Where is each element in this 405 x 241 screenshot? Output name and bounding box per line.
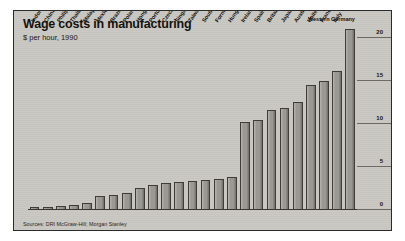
bar[interactable]: Hong Kong — [135, 188, 145, 210]
y-gridline — [357, 37, 391, 38]
bar[interactable]: Spain — [253, 120, 263, 210]
y-tick-label: 10 — [376, 115, 383, 121]
bar[interactable]: Western Germany — [345, 29, 355, 210]
bar-item[interactable]: Britain — [265, 25, 278, 210]
bar[interactable]: United States — [306, 85, 316, 210]
bar-item[interactable]: Hungary — [225, 25, 238, 210]
bar-item[interactable]: France — [317, 25, 330, 210]
bar-item[interactable]: Hong Kong — [133, 25, 146, 210]
bar-item[interactable]: Ireland — [239, 25, 252, 210]
y-gridline — [357, 209, 391, 210]
bar[interactable]: Britain — [267, 110, 277, 210]
bar-item[interactable]: Australia — [291, 25, 304, 210]
y-tick-label: 0 — [380, 201, 383, 207]
bar-item[interactable]: Singapore — [173, 25, 186, 210]
bar-item[interactable]: Italy — [331, 25, 344, 210]
chart-figure: Wage costs in manufacturing $ per hour, … — [13, 10, 392, 231]
bar-label: Spain — [254, 10, 267, 24]
bar[interactable]: Japan — [280, 108, 290, 210]
bar[interactable]: South Korea — [201, 180, 211, 210]
y-tick-label: 20 — [376, 29, 383, 35]
bar-item[interactable]: Poland — [120, 25, 133, 210]
bar[interactable]: Czechoslovakia — [161, 183, 171, 210]
bar-item[interactable]: Philippines — [54, 25, 67, 210]
bar[interactable]: Italy — [332, 71, 342, 210]
bar-label: Western Germany — [308, 17, 355, 23]
bar-item[interactable]: Mexico — [94, 25, 107, 210]
y-gridline — [357, 166, 391, 167]
bar[interactable]: Ireland — [240, 122, 250, 210]
bar-item[interactable]: South Korea — [199, 25, 212, 210]
bar-series: IndonesiaChinaPhilippinesThailandMalaysi… — [28, 25, 357, 210]
bar[interactable]: Hungary — [227, 177, 237, 210]
bar[interactable]: Mexico — [95, 196, 105, 210]
bar-item[interactable]: Malaysia — [81, 25, 94, 210]
bar-item[interactable]: Czechoslovakia — [160, 25, 173, 210]
bar-item[interactable]: Indonesia — [28, 25, 41, 210]
bar[interactable]: Portugal — [148, 185, 158, 210]
bar-item[interactable]: Portugal — [146, 25, 159, 210]
y-tick-label: 5 — [380, 158, 383, 164]
y-gridline — [357, 123, 391, 124]
bar[interactable]: Poland — [122, 193, 132, 210]
bar-item[interactable]: Japan — [278, 25, 291, 210]
bar-item[interactable]: Spain — [252, 25, 265, 210]
bar-item[interactable]: Former Soviet Union — [212, 25, 225, 210]
bar[interactable]: France — [319, 81, 329, 210]
bar-item[interactable]: United States — [304, 25, 317, 210]
x-axis-line — [28, 209, 357, 210]
y-gridline — [357, 80, 391, 81]
bar-item[interactable]: Taiwan — [186, 25, 199, 210]
bar-item[interactable]: Thailand — [67, 25, 80, 210]
bar-item[interactable]: Western Germany — [344, 25, 357, 210]
bar-label: Britain — [267, 10, 282, 24]
bar[interactable]: Former Soviet Union — [214, 179, 224, 210]
bar[interactable]: Singapore — [174, 182, 184, 210]
bar-item[interactable]: Brazil — [107, 25, 120, 210]
y-tick-label: 15 — [376, 72, 383, 78]
bar-item[interactable]: China — [41, 25, 54, 210]
bar-label: Japan — [280, 10, 294, 24]
bar[interactable]: Taiwan — [188, 181, 198, 210]
bar[interactable]: Australia — [293, 102, 303, 210]
plot-area: IndonesiaChinaPhilippinesThailandMalaysi… — [28, 25, 357, 210]
bar-label: Taiwan — [188, 10, 203, 24]
source-note: Sources: DRI McGraw-Hill; Morgan Stanley — [23, 221, 127, 227]
bar[interactable]: Brazil — [109, 195, 119, 210]
